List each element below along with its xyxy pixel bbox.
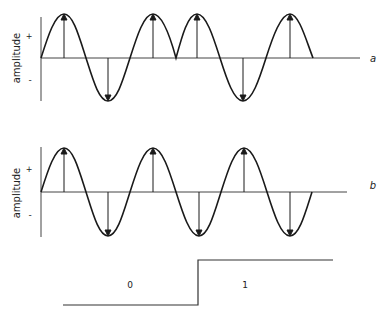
panel-b: amplitude + - b <box>11 147 376 237</box>
panel-a-ylabel: amplitude <box>11 33 22 84</box>
step-label-high: 1 <box>242 280 248 290</box>
panel-b-label: b <box>370 180 376 191</box>
panel-a-minus: - <box>28 75 31 85</box>
phase-modulation-diagram: amplitude + - a amplitude + - b 0 1 <box>0 0 388 322</box>
panel-b-plus: + <box>26 165 33 174</box>
binary-step: 0 1 <box>63 260 333 305</box>
panel-a-plus: + <box>26 32 33 41</box>
step-label-low: 0 <box>127 280 133 290</box>
step-line <box>63 260 333 305</box>
panel-a-label: a <box>370 53 376 64</box>
panel-b-ylabel: amplitude <box>11 168 22 219</box>
panel-b-minus: - <box>28 210 31 220</box>
panel-a: amplitude + - a <box>11 14 376 101</box>
